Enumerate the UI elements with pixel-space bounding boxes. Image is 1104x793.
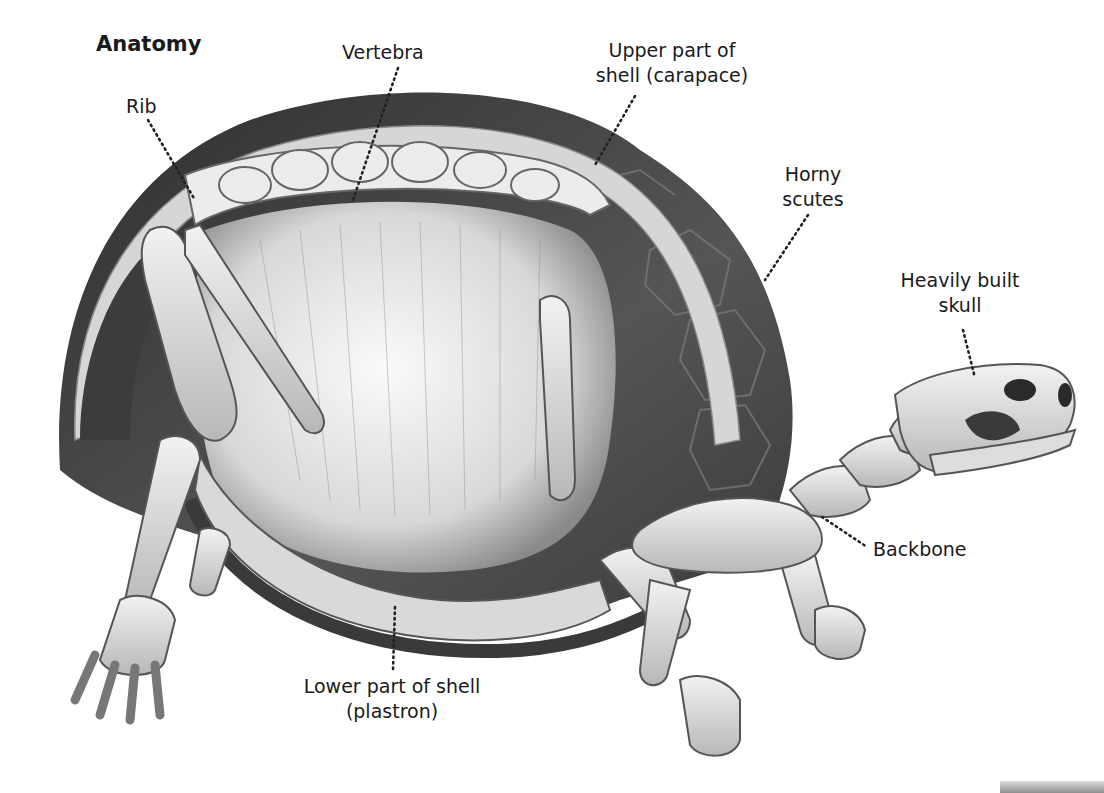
label-carapace-line2: shell (carapace) <box>572 63 772 88</box>
label-plastron-line2: (plastron) <box>272 699 512 724</box>
diagram-title: Anatomy <box>96 32 201 56</box>
leader-vertebra <box>353 68 398 200</box>
anatomy-diagram: Anatomy Rib Vertebra Upper part of shell… <box>0 0 1104 793</box>
label-skull-line1: Heavily built <box>880 268 1040 293</box>
leader-rib <box>148 120 195 200</box>
leader-skull <box>963 330 975 378</box>
leader-lines <box>0 0 1104 793</box>
label-skull: Heavily built skull <box>880 268 1040 318</box>
label-horny-scutes: Horny scutes <box>768 162 858 212</box>
label-plastron: Lower part of shell (plastron) <box>272 674 512 724</box>
label-plastron-line1: Lower part of shell <box>272 674 512 699</box>
label-backbone: Backbone <box>873 537 967 562</box>
leader-backbone <box>822 517 867 547</box>
label-scutes-line1: Horny <box>768 162 858 187</box>
label-carapace-line1: Upper part of <box>572 38 772 63</box>
label-skull-line2: skull <box>880 293 1040 318</box>
label-carapace: Upper part of shell (carapace) <box>572 38 772 88</box>
leader-scutes <box>765 215 808 280</box>
label-vertebra: Vertebra <box>342 40 424 65</box>
label-scutes-line2: scutes <box>768 187 858 212</box>
leader-plastron <box>393 607 395 670</box>
label-rib: Rib <box>126 94 157 119</box>
leader-carapace <box>595 96 635 165</box>
corner-strip <box>1000 781 1104 793</box>
